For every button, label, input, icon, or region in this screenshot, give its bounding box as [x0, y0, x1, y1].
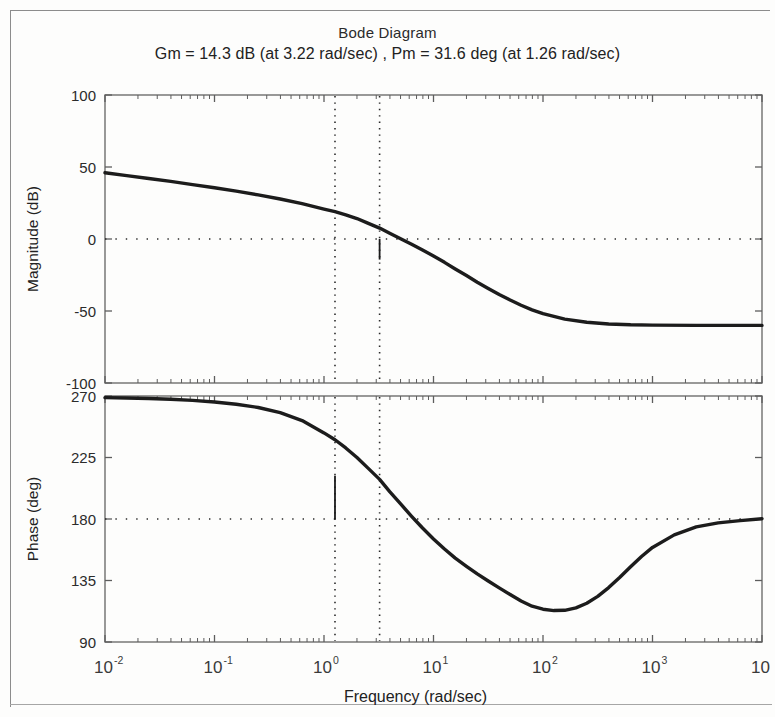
plot-frame — [105, 396, 762, 642]
data-curve-magnitude — [105, 173, 762, 326]
y-tick-label: 0 — [88, 231, 96, 248]
y-tick-label: 225 — [71, 449, 96, 466]
y-tick-label: 180 — [71, 511, 96, 528]
bode-diagram-figure: Bode Diagram Gm = 14.3 dB (at 3.22 rad/s… — [0, 0, 775, 717]
y-tick-label: -50 — [74, 303, 96, 320]
y-tick-label: 100 — [71, 87, 96, 104]
x-tick-label-base: 10 — [532, 658, 551, 677]
y-tick-label: 270 — [71, 388, 96, 405]
magnitude-subplot: -100-50050100Magnitude (dB) — [24, 87, 762, 392]
data-curve-phase — [105, 398, 762, 611]
x-axis-label: Frequency (rad/sec) — [344, 688, 487, 705]
y-tick-label: 90 — [79, 634, 96, 651]
x-tick-label-base: 10 — [751, 658, 770, 677]
x-tick-label-base: 10 — [204, 658, 223, 677]
bode-plot-canvas: -100-50050100Magnitude (dB) 901351802252… — [0, 0, 775, 717]
y-tick-label: 50 — [79, 159, 96, 176]
y-axis-label-phase: Phase (deg) — [24, 477, 41, 561]
y-tick-label: 135 — [71, 572, 96, 589]
x-tick-label-exponent: 0 — [333, 654, 339, 666]
y-axis-label-magnitude: Magnitude (dB) — [24, 186, 41, 292]
x-tick-label-base: 10 — [423, 658, 442, 677]
x-tick-label-exponent: 1 — [443, 654, 449, 666]
x-tick-label-exponent: 3 — [662, 654, 668, 666]
x-tick-label-base: 10 — [94, 658, 113, 677]
plot-frame — [105, 95, 762, 383]
x-tick-label-base: 10 — [642, 658, 661, 677]
phase-subplot: 90135180225270Phase (deg)10-210-11001011… — [24, 388, 770, 706]
x-tick-label-exponent: -1 — [224, 654, 233, 666]
x-tick-label-exponent: -2 — [114, 654, 123, 666]
x-tick-label-base: 10 — [313, 658, 332, 677]
x-tick-label-exponent: 2 — [552, 654, 558, 666]
